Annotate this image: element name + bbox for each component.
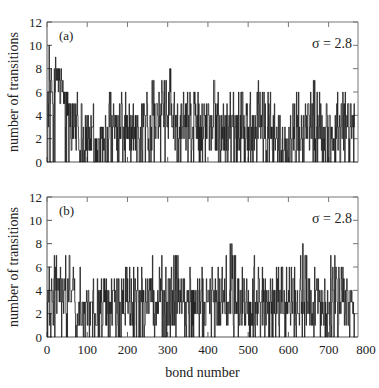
y-tick-label: 2 <box>36 131 43 146</box>
panel-a: 024681012number of transitions(a)σ = 2.8 <box>6 15 358 170</box>
sigma-annotation: σ = 2.8 <box>312 211 352 226</box>
x-tick-label: 400 <box>198 342 218 357</box>
y-tick-label: 12 <box>29 190 42 205</box>
y-tick-label: 12 <box>29 15 42 30</box>
y-tick-label: 6 <box>36 260 43 275</box>
y-tick-label: 2 <box>36 306 43 321</box>
y-tick-label: 0 <box>36 155 43 170</box>
sigma-annotation: σ = 2.8 <box>312 36 352 51</box>
panel-label: (a) <box>59 28 73 43</box>
y-tick-label: 0 <box>36 330 43 345</box>
y-tick-label: 8 <box>36 61 43 76</box>
x-tick-label: 300 <box>158 342 178 357</box>
x-axis-title: bond number <box>165 365 240 380</box>
x-tick-label: 600 <box>279 342 299 357</box>
y-tick-label: 4 <box>36 283 43 298</box>
x-tick-label: 500 <box>238 342 258 357</box>
y-tick-label: 10 <box>29 213 42 228</box>
data-series <box>47 45 355 162</box>
data-series <box>47 244 355 337</box>
y-tick-label: 8 <box>36 236 43 251</box>
x-tick-label: 0 <box>44 342 51 357</box>
x-tick-label: 200 <box>118 342 138 357</box>
x-tick-label: 700 <box>319 342 339 357</box>
y-tick-label: 6 <box>36 85 43 100</box>
x-tick-label: 800 <box>356 342 376 357</box>
x-tick-label: 100 <box>77 342 97 357</box>
panel-label: (b) <box>59 203 74 218</box>
panel-b: 0100200300400500600700800024681012number… <box>6 190 376 381</box>
y-axis-title: number of transitions <box>6 207 21 327</box>
y-axis-title: number of transitions <box>6 32 21 152</box>
y-tick-label: 10 <box>29 38 42 53</box>
figure: 024681012number of transitions(a)σ = 2.8… <box>0 0 379 388</box>
y-tick-label: 4 <box>36 108 43 123</box>
